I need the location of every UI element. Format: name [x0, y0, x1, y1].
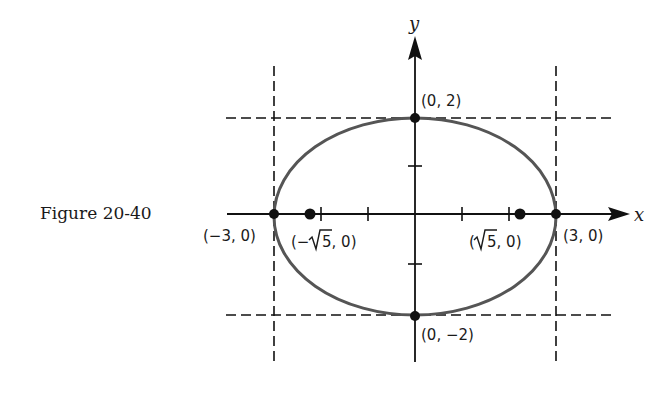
- svg-text:5, 0): 5, 0): [487, 233, 521, 251]
- vertex-point-top: [410, 113, 420, 123]
- svg-text:5, 0): 5, 0): [322, 233, 356, 251]
- label-right-focus: ( 5, 0): [469, 230, 521, 251]
- label-top-vertex: (0, 2): [421, 92, 461, 110]
- svg-text:(−: (−: [291, 233, 309, 251]
- vertex-point-left: [269, 209, 279, 219]
- y-axis-label: y: [408, 13, 420, 34]
- label-bottom-vertex: (0, −2): [421, 326, 474, 344]
- svg-text:(: (: [469, 233, 475, 251]
- label-right-vertex: (3, 0): [563, 227, 603, 245]
- right-focus-prefix: (: [469, 233, 475, 251]
- left-focus-prefix: (−: [291, 233, 309, 251]
- focus-point-right: [515, 209, 526, 220]
- label-left-vertex: (−3, 0): [203, 227, 256, 245]
- label-left-focus: (− 5, 0): [291, 230, 356, 251]
- vertex-point-bottom: [410, 311, 420, 321]
- x-axis-label: x: [634, 204, 644, 225]
- ellipse-diagram: x y (0, 2) (0, −2) (−3, 0) (3, 0) (− 5, …: [0, 0, 669, 406]
- vertex-point-right: [551, 209, 561, 219]
- focus-point-left: [305, 209, 316, 220]
